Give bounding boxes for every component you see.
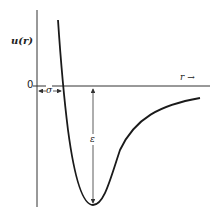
potential-curve (58, 20, 200, 205)
zero-label: 0 (27, 79, 33, 90)
x-axis-label: r → (180, 72, 195, 82)
y-axis-label: u(r) (11, 35, 33, 46)
potential-diagram (0, 0, 218, 217)
sigma-label: σ (46, 85, 52, 95)
epsilon-label: ε (90, 134, 95, 144)
